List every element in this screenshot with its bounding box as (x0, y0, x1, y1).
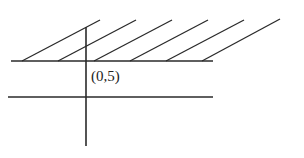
hatched-region (22, 19, 280, 61)
hatch-line (202, 19, 280, 61)
diagram-canvas (0, 0, 304, 158)
hatch-line (166, 20, 244, 61)
hatch-line (58, 20, 136, 61)
hatch-line (94, 20, 172, 61)
point-label: (0,5) (91, 69, 120, 84)
hatch-line (130, 20, 208, 61)
hatch-line (22, 20, 100, 61)
